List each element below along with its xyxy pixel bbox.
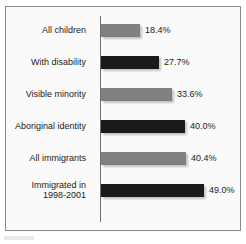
scan-edge-artifact: [4, 236, 34, 240]
bar-track: 18.4%: [101, 24, 240, 37]
value-label: 18.4%: [145, 25, 171, 36]
bar-track: 40.4%: [101, 152, 240, 165]
category-label: Immigrated in 1998-2001: [0, 180, 86, 200]
bar: [101, 88, 172, 101]
chart-figure: All children 18.4% With disability 27.7%…: [0, 0, 246, 244]
bar-track: 40.0%: [101, 120, 240, 133]
bar-track: 27.7%: [101, 56, 240, 69]
value-label: 33.6%: [177, 89, 203, 100]
category-label: Visible minority: [0, 89, 86, 99]
bar-rows: All children 18.4% With disability 27.7%…: [6, 21, 240, 213]
bar-track: 33.6%: [101, 88, 240, 101]
bar-row: Immigrated in 1998-2001 49.0%: [6, 181, 240, 213]
bar: [101, 152, 186, 165]
value-label: 49.0%: [209, 185, 235, 196]
bar-row: With disability 27.7%: [6, 53, 240, 85]
bar: [101, 24, 140, 37]
bar-row: All children 18.4%: [6, 21, 240, 53]
bar-track: 49.0%: [101, 184, 240, 197]
category-label: Aboriginal identity: [0, 121, 86, 131]
bar-row: Visible minority 33.6%: [6, 85, 240, 117]
plot-area: All children 18.4% With disability 27.7%…: [6, 7, 240, 230]
value-label: 40.4%: [191, 153, 217, 164]
value-label: 27.7%: [164, 57, 190, 68]
bar-row: All immigrants 40.4%: [6, 149, 240, 181]
category-label: All children: [0, 25, 86, 35]
chart-frame: All children 18.4% With disability 27.7%…: [5, 6, 241, 231]
bar: [101, 120, 185, 133]
bar: [101, 184, 204, 197]
category-label: With disability: [0, 57, 86, 67]
value-label: 40.0%: [190, 121, 216, 132]
bar-row: Aboriginal identity 40.0%: [6, 117, 240, 149]
bar: [101, 56, 159, 69]
category-label: All immigrants: [0, 153, 86, 163]
